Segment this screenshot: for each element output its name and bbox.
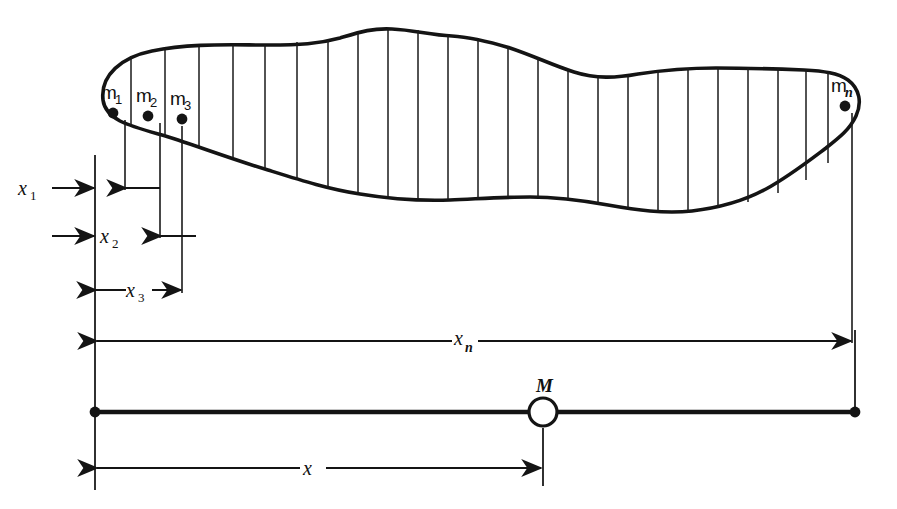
mass-points-group: m 1 m 2 m 3 m n [101,75,853,124]
body-outline-group [103,29,860,212]
dimension-label-x: x [302,457,312,479]
dimension-label-xn-subscript: n [465,340,473,355]
dimension-label-x1-subscript: 1 [30,188,37,203]
dimension-label-x1: x [17,177,27,199]
mass-distribution-diagram: m 1 m 2 m 3 m n [0,0,897,509]
dimension-x2-group: x 2 [52,225,196,251]
beam-right-node-dot [850,407,861,418]
dimension-x3-group: x 3 [96,279,181,305]
dimension-label-x3: x [125,279,135,301]
pivot-mass-circle [529,398,557,426]
mass-label-m3-subscript: 3 [184,98,191,113]
mass-dot-m1 [108,108,119,119]
dimension-x1-group: x 1 [17,177,160,203]
dimension-label-xn: x [453,327,463,349]
body-strips-group [131,29,828,211]
mass-dot-m2 [143,111,154,122]
mass-dot-m3 [177,114,188,125]
irregular-body-outline [103,29,860,212]
dimension-x-group: x [97,457,541,479]
reference-lines-group [95,155,855,490]
mass-label-mn-subscript: n [845,85,853,100]
leader-lines-group [125,113,852,343]
beam-left-node-dot [90,407,101,418]
pivot-mass-label: M [535,375,554,396]
mass-label-m2-subscript: 2 [150,95,157,110]
dimension-label-x3-subscript: 3 [138,290,145,305]
equivalent-beam-group: M [90,375,861,426]
dimension-label-x2: x [99,225,109,247]
dimension-xn-group: x n [97,327,851,355]
mass-label-m1-subscript: 1 [115,92,122,107]
mass-dot-mn [840,101,851,112]
figure-root: m 1 m 2 m 3 m n [0,0,897,509]
dimension-label-x2-subscript: 2 [112,236,119,251]
